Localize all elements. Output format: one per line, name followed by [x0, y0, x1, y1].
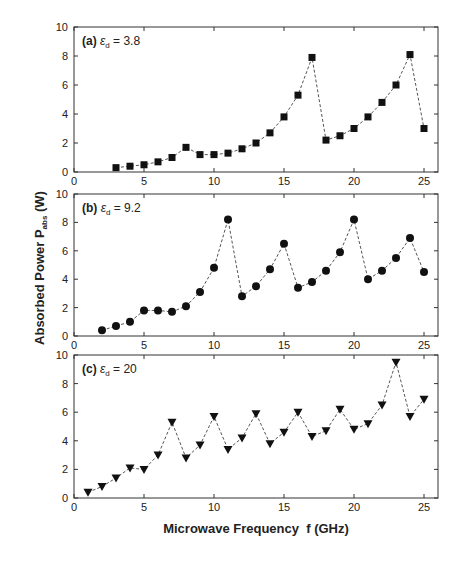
circle-marker	[266, 265, 274, 273]
x-tick-label: 25	[418, 501, 430, 513]
x-tick-label: 0	[71, 501, 77, 513]
circle-marker	[322, 267, 330, 275]
square-marker	[337, 132, 344, 139]
x-tick-label: 25	[418, 175, 430, 187]
square-marker	[365, 113, 372, 120]
square-marker	[127, 163, 134, 170]
panel-label-id: (c)	[82, 362, 100, 376]
figure: 02468100510152025(a) εd = 3.802468100510…	[0, 0, 473, 563]
y-tick-label: 6	[62, 79, 68, 91]
panel-label-id: (a)	[82, 34, 100, 48]
y-tick-label: 0	[62, 166, 68, 178]
x-tick-label: 5	[141, 339, 147, 351]
y-axis-label-unit: (W)	[32, 191, 47, 216]
x-tick-label: 25	[418, 339, 430, 351]
circle-marker	[126, 318, 134, 326]
plot-frame	[74, 194, 438, 336]
y-tick-label: 4	[62, 435, 68, 447]
x-tick-label: 20	[348, 339, 360, 351]
square-marker	[407, 51, 414, 58]
circle-marker	[364, 275, 372, 283]
x-tick-label: 10	[208, 339, 220, 351]
y-tick-label: 2	[62, 302, 68, 314]
panel-a: 02468100510152025(a) εd = 3.8	[56, 21, 438, 187]
y-tick-label: 2	[62, 137, 68, 149]
square-marker	[421, 125, 428, 132]
triangle-down-marker	[294, 409, 303, 417]
triangle-down-marker	[350, 426, 359, 434]
data-line	[102, 220, 424, 331]
circle-marker	[98, 326, 106, 334]
y-tick-label: 8	[62, 50, 68, 62]
data-line	[88, 362, 424, 492]
circle-marker	[406, 234, 414, 242]
triangle-down-marker	[182, 454, 191, 462]
panel-label-value: = 20	[110, 362, 137, 376]
y-axis-label: Absorbed Power Pabs (W)	[32, 191, 49, 345]
circle-marker	[420, 268, 428, 276]
square-marker	[169, 154, 176, 161]
panel-label-value: = 9.2	[110, 201, 141, 215]
data-line	[116, 55, 424, 168]
y-tick-label: 10	[56, 349, 68, 361]
y-tick-label: 8	[62, 378, 68, 390]
circle-marker	[168, 308, 176, 316]
square-marker	[211, 151, 218, 158]
panels: 02468100510152025(a) εd = 3.802468100510…	[56, 21, 438, 513]
circle-marker	[308, 278, 316, 286]
circle-marker	[140, 306, 148, 314]
circle-marker	[112, 322, 120, 330]
x-tick-label: 20	[348, 175, 360, 187]
x-axis-label: Microwave Frequency f (GHz)	[163, 521, 349, 536]
x-tick-label: 15	[278, 339, 290, 351]
circle-marker	[182, 302, 190, 310]
square-marker	[225, 150, 232, 157]
square-marker	[253, 140, 260, 147]
y-tick-label: 4	[62, 108, 68, 120]
circle-marker	[224, 216, 232, 224]
y-tick-label: 10	[56, 188, 68, 200]
circle-marker	[336, 248, 344, 256]
circle-marker	[252, 282, 260, 290]
triangle-down-marker	[406, 413, 415, 421]
triangle-down-marker	[266, 440, 275, 448]
triangle-down-marker	[154, 452, 163, 460]
square-marker	[155, 158, 162, 165]
triangle-down-marker	[392, 359, 401, 367]
square-marker	[309, 54, 316, 61]
plot-frame	[74, 355, 438, 498]
square-marker	[113, 164, 120, 171]
square-marker	[239, 145, 246, 152]
y-tick-label: 0	[62, 492, 68, 504]
y-tick-label: 6	[62, 245, 68, 257]
circle-marker	[238, 292, 246, 300]
square-marker	[197, 151, 204, 158]
x-tick-label: 10	[208, 175, 220, 187]
x-tick-label: 5	[141, 501, 147, 513]
square-marker	[323, 137, 330, 144]
panel-c: 02468100510152025(c) εd = 20	[56, 349, 438, 513]
x-tick-label: 20	[348, 501, 360, 513]
x-tick-label: 0	[71, 339, 77, 351]
triangle-down-marker	[140, 466, 149, 474]
x-tick-label: 15	[278, 175, 290, 187]
y-tick-label: 0	[62, 330, 68, 342]
x-tick-label: 0	[71, 175, 77, 187]
panel-label-id: (b)	[82, 201, 101, 215]
triangle-down-marker	[308, 433, 317, 441]
panel-label: (c) εd = 20	[82, 362, 137, 378]
square-marker	[183, 144, 190, 151]
triangle-down-marker	[238, 434, 247, 442]
y-tick-label: 10	[56, 21, 68, 33]
y-tick-label: 4	[62, 273, 68, 285]
triangle-down-marker	[364, 420, 373, 428]
panel-label: (a) εd = 3.8	[82, 34, 140, 50]
circle-marker	[280, 240, 288, 248]
triangle-down-marker	[98, 483, 107, 491]
circle-marker	[392, 254, 400, 262]
panel-b: 02468100510152025(b) εd = 9.2	[56, 188, 438, 351]
triangle-down-marker	[210, 413, 219, 421]
circle-marker	[378, 267, 386, 275]
circle-marker	[154, 306, 162, 314]
triangle-down-marker	[224, 446, 233, 454]
